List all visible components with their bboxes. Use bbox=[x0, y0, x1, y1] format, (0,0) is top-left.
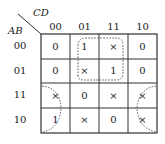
kmap-cell: 0 bbox=[41, 35, 70, 59]
col-header: 01 bbox=[70, 21, 99, 32]
kmap-cell: 0 bbox=[128, 59, 157, 83]
kmap-cell: × bbox=[41, 84, 70, 108]
kmap-cell: × bbox=[128, 84, 157, 108]
row-variable-label: AB bbox=[8, 25, 23, 36]
kmap-cell: × bbox=[70, 59, 99, 83]
row-header: 10 bbox=[8, 114, 32, 125]
kmap-cell: × bbox=[70, 108, 99, 132]
row-header: 01 bbox=[8, 65, 32, 76]
kmap-cell: 0 bbox=[128, 35, 157, 59]
col-header: 11 bbox=[99, 21, 128, 32]
kmap-cell: × bbox=[99, 35, 128, 59]
kmap-cell: × bbox=[128, 108, 157, 132]
kmap-cell: 0 bbox=[99, 108, 128, 132]
kmap-cell: 0 bbox=[41, 59, 70, 83]
row-header: 00 bbox=[8, 40, 32, 51]
kmap-cell: 1 bbox=[70, 35, 99, 59]
col-header: 10 bbox=[128, 21, 157, 32]
kmap-cell: 0 bbox=[70, 84, 99, 108]
kmap-cell: 1 bbox=[41, 108, 70, 132]
col-header: 00 bbox=[41, 21, 70, 32]
col-variable-label: CD bbox=[33, 7, 49, 18]
kmap-cell: 1 bbox=[99, 59, 128, 83]
kmap-cell: × bbox=[99, 84, 128, 108]
row-header: 11 bbox=[8, 89, 32, 100]
